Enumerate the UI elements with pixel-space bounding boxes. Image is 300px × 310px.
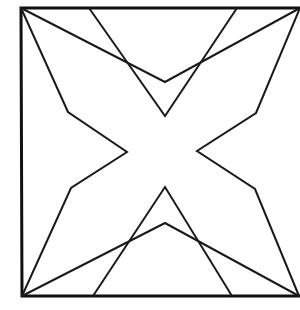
top-shallow-v <box>21 8 300 82</box>
geometric-diagram <box>0 0 300 310</box>
right-arm-polyline <box>197 8 300 296</box>
bottom-shallow-lambda <box>22 223 299 296</box>
top-deep-v <box>89 8 237 116</box>
left-arm-polyline <box>21 8 127 296</box>
square-frame <box>21 8 300 296</box>
bottom-deep-lambda <box>93 187 232 296</box>
